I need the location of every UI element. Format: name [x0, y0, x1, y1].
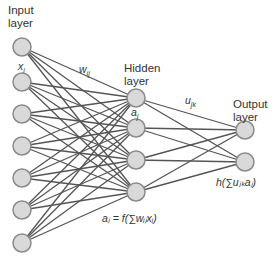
edge [136, 130, 245, 160]
hidden-node [127, 183, 145, 201]
hidden-layer-label-line1: Hidden [124, 62, 160, 75]
neural-network-diagram: Input layer xi wij Hidden layer aj ujk O… [0, 0, 278, 265]
output-layer-label: Output layer [233, 98, 268, 124]
output-layer-label-line2: layer [233, 111, 268, 124]
hidden-node [127, 89, 145, 107]
output-layer-label-line1: Output [233, 98, 268, 111]
hidden-layer-label: Hidden layer [124, 62, 160, 88]
edge [22, 98, 136, 114]
input-layer-label: Input layer [8, 4, 34, 30]
x-i-label: xi [18, 60, 25, 77]
output-node [236, 153, 254, 171]
edge [22, 98, 136, 210]
input-node [13, 201, 31, 219]
input-node [13, 169, 31, 187]
edge [22, 128, 136, 210]
input-layer-label-line2: layer [8, 17, 34, 30]
edge [22, 98, 136, 178]
input-layer-label-line1: Input [8, 4, 34, 17]
hidden-node [127, 151, 145, 169]
edge [22, 160, 136, 243]
w-ij-label: wij [79, 63, 90, 80]
a-j-label: aj [131, 106, 138, 123]
hidden-layer-label-line2: layer [124, 75, 160, 88]
input-node [13, 38, 31, 56]
network-graph [0, 0, 278, 265]
output-activation-formula: h(∑uⱼₖaⱼ) [216, 176, 256, 189]
input-node [13, 234, 31, 252]
hidden-activation-formula: aⱼ = f(∑wᵢⱼxᵢ) [102, 212, 157, 225]
input-node [13, 105, 31, 123]
u-jk-label: ujk [185, 94, 196, 111]
input-node [13, 137, 31, 155]
